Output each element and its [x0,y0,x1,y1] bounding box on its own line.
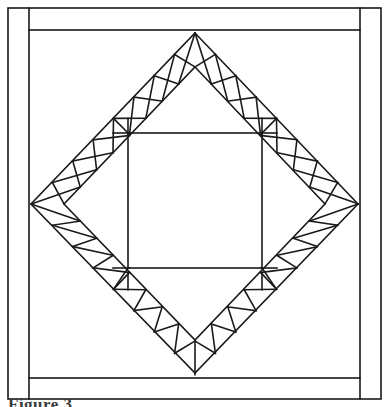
quilt-block-diagram [0,0,389,407]
band-triangle-diagonal [113,118,114,152]
band-triangle-diagonal [277,118,278,152]
figure-container: Figure 3 [0,0,389,407]
figure-caption: Figure 3 [8,396,73,407]
